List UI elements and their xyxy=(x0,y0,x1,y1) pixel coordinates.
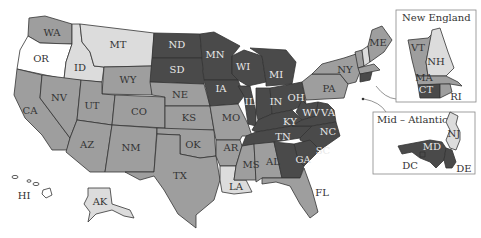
label-de: DE xyxy=(456,163,471,174)
label-nm: NM xyxy=(122,142,141,153)
callout-new-england xyxy=(376,86,396,99)
label-ct: CT xyxy=(419,84,434,95)
label-va: VA xyxy=(320,107,336,118)
label-nc: NC xyxy=(320,126,337,137)
label-oh: OH xyxy=(288,92,305,103)
label-nh: NH xyxy=(427,56,445,67)
label-vt: VT xyxy=(410,42,425,53)
label-in: IN xyxy=(270,96,283,107)
label-nv: NV xyxy=(51,92,68,103)
label-mo: MO xyxy=(222,112,240,123)
inset-new-england: New England VT NH MA CT RI xyxy=(396,10,476,102)
label-mi: MI xyxy=(269,69,283,80)
label-al: AL xyxy=(265,156,280,167)
label-pa: PA xyxy=(322,83,336,94)
label-il: IL xyxy=(245,96,256,107)
label-wv: WV xyxy=(302,107,320,118)
label-ga: GA xyxy=(295,154,311,165)
label-sd: SD xyxy=(170,64,185,75)
label-md: MD xyxy=(423,141,441,152)
label-ri: RI xyxy=(450,91,462,102)
label-tx: TX xyxy=(173,170,188,181)
callout-mid-atlantic xyxy=(364,99,386,112)
svg-text:Mid – Atlantic: Mid – Atlantic xyxy=(377,114,448,125)
us-choropleth-map: WA OR CA ID NV MT WY UT CO AZ NM ND SD N… xyxy=(0,0,481,238)
label-ma: MA xyxy=(415,72,433,83)
label-ky: KY xyxy=(283,116,297,127)
label-nd: ND xyxy=(169,39,186,50)
label-hi: HI xyxy=(18,190,31,201)
label-la: LA xyxy=(229,181,244,192)
state-AK[interactable] xyxy=(84,188,134,222)
label-wi: WI xyxy=(236,61,250,72)
label-me: ME xyxy=(369,37,387,48)
state-CT[interactable] xyxy=(360,72,372,82)
label-ms: MS xyxy=(242,159,259,170)
label-sc: SC xyxy=(316,145,331,156)
label-ok: OK xyxy=(185,139,201,150)
label-co: CO xyxy=(131,106,147,117)
label-tn: TN xyxy=(275,131,291,142)
label-ut: UT xyxy=(84,100,99,111)
label-wa: WA xyxy=(43,27,61,38)
label-nj: NJ xyxy=(448,128,461,139)
label-ny: NY xyxy=(337,64,353,75)
inset-state-DC[interactable] xyxy=(420,152,425,157)
label-ia: IA xyxy=(215,83,227,94)
label-fl: FL xyxy=(315,187,329,198)
label-dc: DC xyxy=(402,160,418,171)
label-ar: AR xyxy=(223,142,239,153)
inset-mid-atlantic: Mid – Atlantic NJ MD DC DE xyxy=(373,112,475,174)
label-ks: KS xyxy=(182,112,196,123)
label-id: ID xyxy=(74,62,86,73)
label-ca: CA xyxy=(23,105,39,116)
label-az: AZ xyxy=(79,139,94,150)
label-mt: MT xyxy=(110,39,127,50)
label-wy: WY xyxy=(120,74,137,85)
label-ak: AK xyxy=(92,196,108,207)
label-ne: NE xyxy=(172,89,188,100)
label-mn: MN xyxy=(206,49,225,60)
label-or: OR xyxy=(33,53,49,64)
svg-text:New England: New England xyxy=(402,12,471,23)
